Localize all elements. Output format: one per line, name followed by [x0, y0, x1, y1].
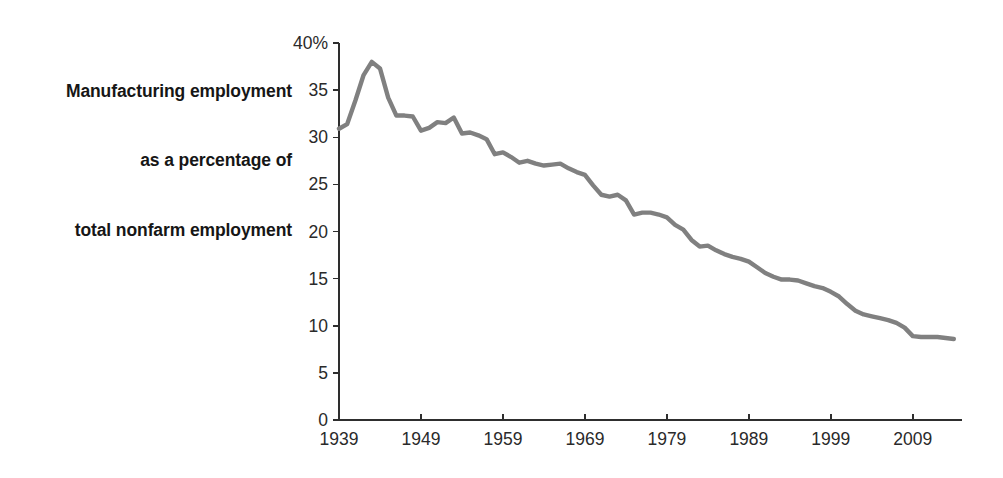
- y-tick-label: 25: [309, 174, 328, 194]
- y-tick-label: 10: [309, 316, 329, 336]
- x-tick-label: 1999: [811, 429, 850, 449]
- x-tick-label: 1989: [729, 429, 768, 449]
- x-tick-label: 1979: [647, 429, 686, 449]
- y-tick-label: 35: [309, 80, 328, 100]
- y-tick-label: 0: [318, 410, 328, 430]
- x-tick-label: 1959: [483, 429, 522, 449]
- y-tick-label: 5: [318, 363, 328, 383]
- x-tick-label: 1949: [402, 429, 441, 449]
- series-line-manufacturing-share: [339, 62, 954, 339]
- y-tick-label: 30: [309, 127, 329, 147]
- y-tick-label: 15: [309, 269, 328, 289]
- y-tick-label: 40%: [293, 33, 328, 53]
- x-tick-label: 1939: [320, 429, 359, 449]
- line-chart-plot: 40%35302520151050 1939194919591969197919…: [0, 0, 1003, 478]
- chart-figure: Manufacturing employment as a percentage…: [0, 0, 1003, 478]
- y-tick-label: 20: [309, 222, 329, 242]
- y-axis-tick-group: 40%35302520151050: [293, 33, 339, 430]
- x-tick-label: 2009: [893, 429, 932, 449]
- x-tick-label: 1969: [565, 429, 604, 449]
